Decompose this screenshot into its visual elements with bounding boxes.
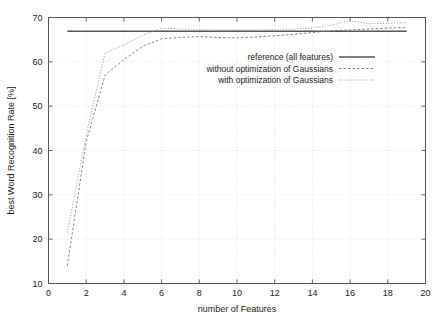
y-tick-label: 20 <box>32 234 42 244</box>
x-tick-label: 12 <box>270 288 280 298</box>
y-axis-title: best Word Recognition Rate [%] <box>6 87 16 215</box>
x-tick-label: 0 <box>46 288 51 298</box>
x-tick-label: 14 <box>307 288 317 298</box>
y-tick-label: 40 <box>32 146 42 156</box>
legend-label: with optimization of Gaussians <box>217 75 333 85</box>
legend-label: without optimization of Gaussians <box>205 64 333 74</box>
x-tick-label: 20 <box>420 288 430 298</box>
x-tick-label: 2 <box>84 288 89 298</box>
y-tick-label: 30 <box>32 190 42 200</box>
x-tick-label: 4 <box>121 288 126 298</box>
x-tick-label: 6 <box>159 288 164 298</box>
axis-tick-labels: 0246810121416182010203040506070 <box>32 13 430 298</box>
x-tick-label: 10 <box>232 288 242 298</box>
y-tick-label: 50 <box>32 101 42 111</box>
chart-legend: reference (all features)without optimiza… <box>205 52 375 85</box>
legend-label: reference (all features) <box>247 52 333 62</box>
y-tick-label: 10 <box>32 279 42 289</box>
x-tick-label: 16 <box>345 288 355 298</box>
x-tick-label: 18 <box>383 288 393 298</box>
y-tick-label: 70 <box>32 13 42 23</box>
chart-container: 0246810121416182010203040506070 referenc… <box>0 0 437 323</box>
chart-plot: 0246810121416182010203040506070 referenc… <box>0 0 437 323</box>
x-axis-title: number of Features <box>198 304 277 314</box>
y-tick-label: 60 <box>32 57 42 67</box>
x-tick-label: 8 <box>197 288 202 298</box>
